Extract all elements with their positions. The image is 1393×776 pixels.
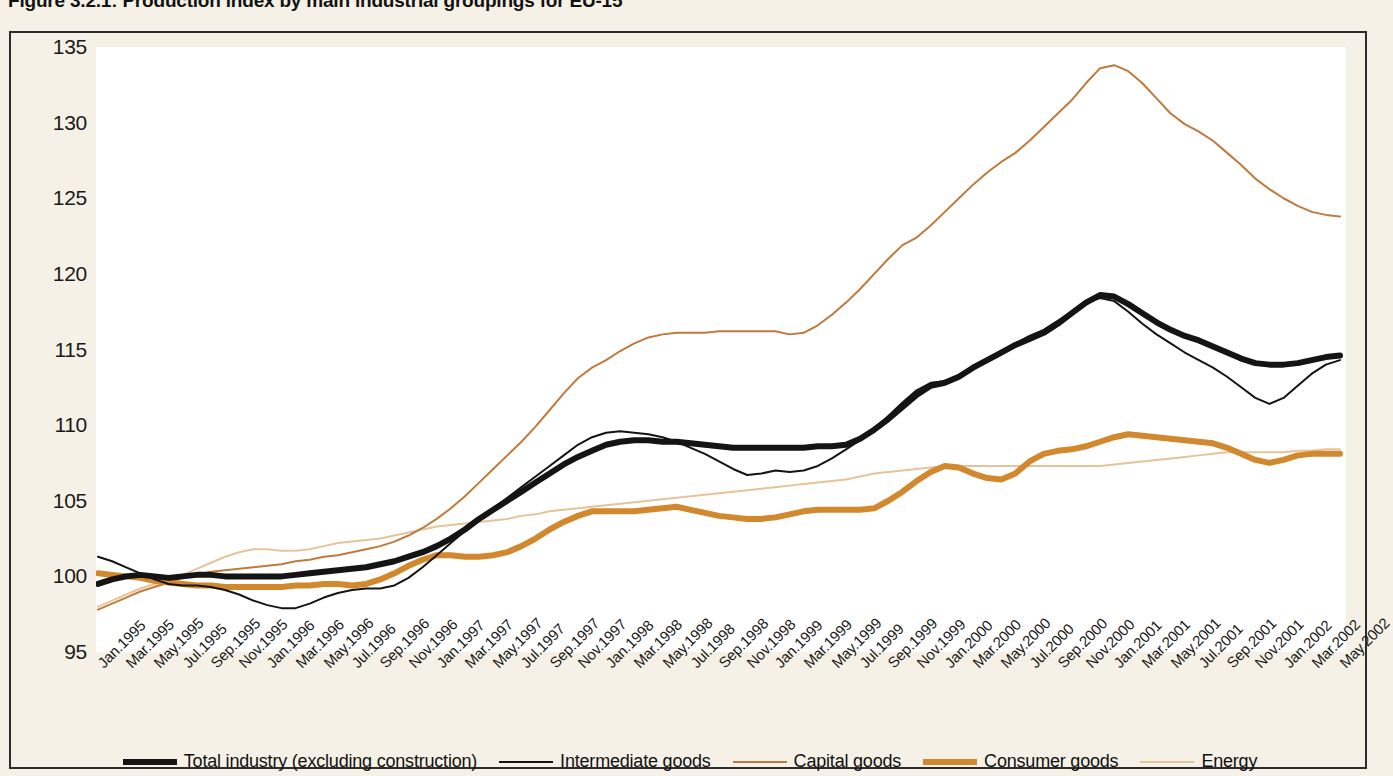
series-line-energy bbox=[98, 449, 1340, 606]
series-line-capital-goods bbox=[98, 65, 1340, 610]
legend-swatch-total-industry-excluding-construction bbox=[123, 759, 177, 765]
y-axis-tick-115: 115 bbox=[27, 338, 87, 362]
legend-swatch-capital-goods bbox=[733, 761, 787, 763]
legend-item-energy[interactable]: Energy bbox=[1140, 751, 1257, 772]
y-axis: 95100105110115120125130135 bbox=[19, 47, 87, 652]
y-axis-tick-125: 125 bbox=[27, 186, 87, 210]
legend-swatch-energy bbox=[1140, 761, 1194, 763]
figure-title: Figure 3.2.1: Production index by main i… bbox=[8, 0, 622, 12]
plot-area bbox=[96, 47, 1346, 652]
legend-swatch-intermediate-goods bbox=[499, 761, 553, 763]
legend-label: Energy bbox=[1201, 751, 1257, 772]
legend-item-total-industry-excluding-construction[interactable]: Total industry (excluding construction) bbox=[123, 751, 477, 772]
chart-frame: 95100105110115120125130135 Jan.1995Mar.1… bbox=[9, 31, 1367, 769]
y-axis-tick-120: 120 bbox=[27, 262, 87, 286]
legend-label: Total industry (excluding construction) bbox=[184, 751, 477, 772]
y-axis-tick-135: 135 bbox=[27, 35, 87, 59]
series-line-intermediate-goods bbox=[98, 298, 1340, 608]
legend-swatch-consumer-goods bbox=[923, 759, 977, 765]
x-axis: Jan.1995Mar.1995May.1995Jul.1995Sep.1995… bbox=[96, 655, 1346, 747]
legend-item-capital-goods[interactable]: Capital goods bbox=[733, 751, 901, 772]
y-axis-tick-105: 105 bbox=[27, 489, 87, 513]
legend-label: Capital goods bbox=[794, 751, 901, 772]
y-axis-tick-100: 100 bbox=[27, 564, 87, 588]
legend-item-intermediate-goods[interactable]: Intermediate goods bbox=[499, 751, 711, 772]
y-axis-tick-130: 130 bbox=[27, 111, 87, 135]
chart-legend: Total industry (excluding construction)I… bbox=[11, 751, 1369, 772]
legend-label: Intermediate goods bbox=[560, 751, 711, 772]
legend-item-consumer-goods[interactable]: Consumer goods bbox=[923, 751, 1118, 772]
legend-label: Consumer goods bbox=[984, 751, 1118, 772]
line-chart-svg bbox=[96, 47, 1346, 652]
y-axis-tick-110: 110 bbox=[27, 413, 87, 437]
y-axis-tick-95: 95 bbox=[27, 640, 87, 664]
